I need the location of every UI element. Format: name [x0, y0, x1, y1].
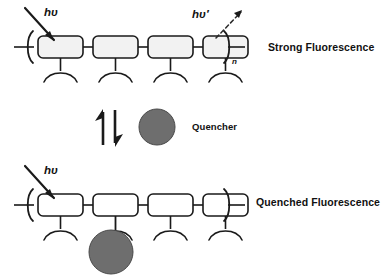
pendant-arc-top-1: [44, 73, 77, 82]
pendant-arc-top-2: [99, 73, 132, 82]
emission-arrow-top: [216, 10, 242, 38]
quencher-circle-free: [139, 109, 175, 145]
pendant-arc-bottom-4: [209, 231, 242, 240]
bottom-polymer-chain: [14, 189, 248, 274]
emission-label-top: hυ′: [192, 8, 209, 20]
state-label-quenched-fluorescence: Quenched Fluorescence: [256, 196, 380, 208]
state-label-strong-fluorescence: Strong Fluorescence: [268, 41, 374, 53]
excitation-label-top: hυ: [44, 6, 58, 18]
pendant-arc-bottom-3: [154, 231, 187, 240]
polymer-quenching-diagram: hυ hυ′ n Strong Fluorescence Quencher hυ…: [0, 0, 381, 280]
repeat-unit-top-1: [38, 36, 83, 58]
emission-arrow-head-top: [234, 10, 242, 18]
repeat-unit-bottom-3: [148, 194, 193, 216]
repeat-unit-bottom-1: [38, 194, 83, 216]
pendant-arc-bottom-1: [44, 231, 77, 240]
pendant-arc-top-3: [154, 73, 187, 82]
pendant-arc-top-4: [209, 73, 242, 82]
quencher-circle-bound: [89, 230, 133, 274]
excitation-label-bottom: hυ: [44, 164, 58, 176]
quencher-label: Quencher: [192, 121, 237, 132]
repeat-unit-bottom-2: [93, 194, 138, 216]
repeat-unit-top-3: [148, 36, 193, 58]
repeat-subscript-top: n: [232, 57, 237, 66]
top-polymer-chain: [14, 31, 248, 82]
repeat-unit-top-2: [93, 36, 138, 58]
equilibrium-arrows: [95, 109, 123, 147]
